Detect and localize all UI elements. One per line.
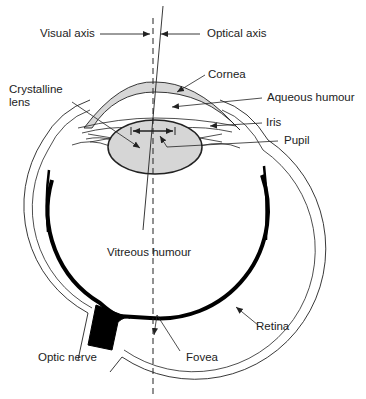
retina-leader: [236, 307, 258, 325]
label-crystalline-lens-line2: lens: [9, 96, 30, 109]
label-retina: Retina: [256, 320, 289, 333]
crystalline-lens: [108, 120, 202, 174]
label-visual-axis: Visual axis: [40, 27, 95, 40]
label-fovea: Fovea: [186, 351, 218, 364]
label-optic-nerve: Optic nerve: [38, 351, 97, 364]
label-iris: Iris: [266, 116, 281, 129]
label-vitreous-humour: Vitreous humour: [107, 246, 191, 259]
optic-nerve: [88, 305, 130, 350]
label-crystalline-lens-line1: Crystalline: [9, 83, 63, 96]
label-aqueous-humour: Aqueous humour: [267, 91, 355, 104]
label-optical-axis: Optical axis: [207, 27, 266, 40]
optic-nerve-sheath-right: [110, 357, 122, 372]
cornea-leader: [177, 75, 205, 92]
label-pupil: Pupil: [284, 134, 310, 147]
label-cornea: Cornea: [208, 68, 246, 81]
eye-cross-section-diagram: [0, 0, 366, 399]
aqueous-humour-leader: [172, 98, 262, 107]
